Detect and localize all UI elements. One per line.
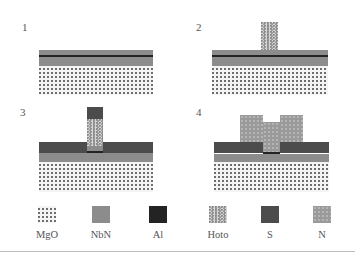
n-layer-right-top	[280, 115, 303, 142]
s-layer-left	[39, 142, 87, 153]
panel-step-4	[214, 115, 329, 192]
mgo-substrate	[39, 66, 153, 95]
nbn-layer-bottom	[39, 57, 153, 66]
mgo-substrate	[212, 66, 328, 95]
legend-swatch-mgo	[38, 206, 56, 223]
bottom-divider	[0, 251, 355, 252]
legend-label-n: N	[302, 230, 342, 241]
s-layer-left	[214, 142, 263, 153]
step-label-2: 2	[196, 22, 202, 33]
n-layer-notch-fill	[263, 122, 280, 153]
legend-label-al: Al	[138, 230, 178, 241]
panel-step-3	[39, 107, 153, 192]
legend-label-mgo: MgO	[27, 230, 67, 241]
legend-swatch-n	[313, 206, 331, 223]
legend-swatch-nbn	[92, 206, 110, 223]
legend-label-nbn: NbN	[81, 230, 121, 241]
legend-swatch-s	[261, 206, 279, 223]
nbn-layer	[214, 154, 329, 162]
legend: MgO NbN Al Hoto S N	[0, 205, 355, 245]
s-cap	[87, 107, 103, 119]
hoto-resist-pillar	[261, 22, 278, 50]
legend-swatch-hoto	[209, 206, 227, 223]
panel-step-2	[212, 22, 328, 95]
step-label-4: 4	[196, 107, 202, 118]
n-layer-left-top	[240, 115, 263, 142]
nbn-layer-bottom	[212, 57, 328, 66]
mgo-substrate	[214, 162, 329, 192]
s-layer-right	[280, 142, 329, 153]
panel-step-1	[39, 50, 153, 95]
legend-swatch-al	[149, 206, 167, 223]
step-label-3: 3	[20, 107, 26, 118]
legend-label-hoto: Hoto	[198, 230, 238, 241]
legend-label-s: S	[250, 230, 290, 241]
mgo-substrate	[39, 162, 153, 192]
hoto-resist-pillar	[87, 119, 103, 147]
nbn-layer	[39, 153, 153, 162]
s-layer-right	[103, 142, 153, 153]
step-label-1: 1	[22, 22, 28, 33]
